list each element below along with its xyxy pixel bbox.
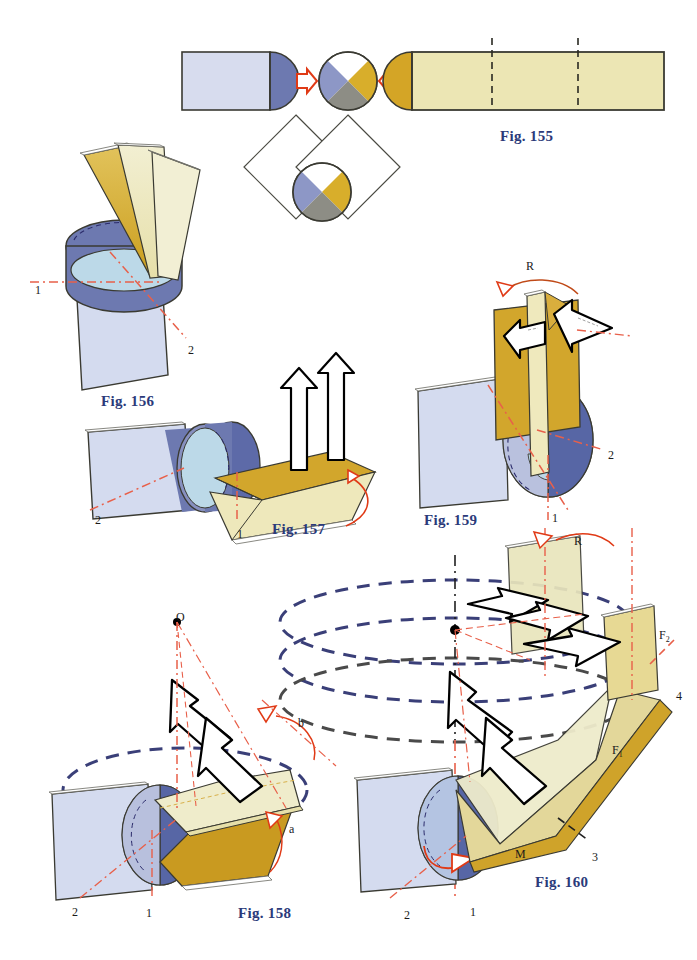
fig-158-apex-label-o: O: [176, 610, 185, 625]
fig-160-axis-label-2: 2: [404, 908, 410, 923]
fig-158-angle-label-b: b: [298, 716, 304, 731]
fig-160-plane-label-f2-text: F: [659, 628, 666, 642]
fig155-arrow-right-icon: [297, 69, 317, 93]
fig-158-group: [49, 618, 336, 900]
fig-159-axis-label-1: 1: [552, 511, 558, 526]
fig-160-plane-label-f1-text: F: [612, 743, 619, 757]
fig-155-group: [182, 38, 664, 221]
fig-160-plane-label-f1-sub: 1: [619, 750, 623, 759]
fig-160-caption: Fig. 160: [535, 874, 588, 891]
fig-157-axis-label-1: 1: [237, 527, 243, 542]
fig-160-plane-label-f2-sub: 2: [666, 635, 670, 644]
fig-158-caption: Fig. 158: [238, 905, 291, 922]
figure-sheet: Fig. 155 Fig. 156 1 2 Fig. 157 2 1 Fig. …: [0, 0, 697, 960]
figures-canvas: [0, 0, 697, 960]
fig-158-axis-label-1: 1: [146, 906, 152, 921]
fig-160-axis-label-3: 3: [592, 850, 598, 865]
fig-159-caption: Fig. 159: [424, 512, 477, 529]
fig-156-axis-label-1: 1: [35, 283, 41, 298]
fig-157-caption: Fig. 157: [272, 521, 325, 538]
fig155-gold-capsule: [383, 38, 664, 110]
fig155-quadrant-circle-bottom: [293, 163, 351, 221]
fig-160-point-label-m: M: [515, 847, 526, 862]
fig-158-angle-label-a: a: [289, 822, 294, 837]
fig-156-caption: Fig. 156: [101, 393, 154, 410]
fig-155-caption: Fig. 155: [500, 128, 553, 145]
fig-160-axis-label-4: 4: [676, 689, 682, 704]
fig-158-axis-label-2: 2: [72, 905, 78, 920]
fig-160-plane-label-f1: F1: [612, 743, 623, 759]
fig-159-rotation-label-r: R: [526, 259, 534, 274]
fig155-blue-capsule: [182, 52, 299, 110]
fig-160-rotation-label-r: R: [574, 534, 582, 549]
fig-156-axis-label-2: 2: [188, 343, 194, 358]
fig-157-axis-label-2: 2: [95, 513, 101, 528]
fig-160-group: [280, 528, 674, 900]
fig-156-group: [30, 143, 200, 390]
fig-160-plane-label-f2: F2: [659, 628, 670, 644]
fig-160-axis-label-1: 1: [470, 905, 476, 920]
fig-159-axis-label-2: 2: [608, 448, 614, 463]
fig-159-group: [415, 280, 632, 520]
fig155-quadrant-circle-top: [319, 52, 377, 110]
